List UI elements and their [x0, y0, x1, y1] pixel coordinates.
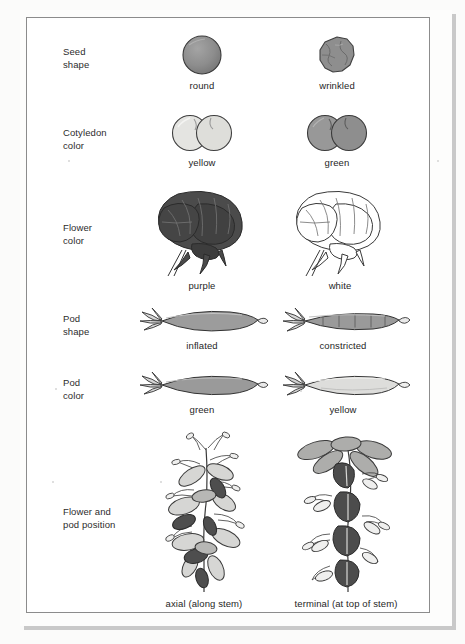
trait-cell-purple-flower: purple [139, 186, 265, 291]
caption-green-pod: green [127, 404, 277, 415]
trait-cell-constricted-pod: constricted [265, 304, 421, 351]
caption-green-cotyledon: green [282, 157, 392, 168]
trait-cell-yellow-pod: yellow [265, 368, 421, 415]
trait-cell-round: round [147, 32, 257, 91]
trait-row-seed-shape: Seed shape round [27, 32, 431, 108]
caption-yellow-cotyledon: yellow [147, 157, 257, 168]
scan-speck [437, 160, 439, 162]
trait-cell-terminal: terminal (at top of stem) [261, 430, 431, 609]
row-label-flower-color: Flower color [63, 222, 92, 247]
trait-row-pod-shape: Pod shape inflated [27, 304, 431, 366]
green-pod-icon [132, 368, 272, 402]
trait-row-flower-color: Flower color [27, 186, 431, 301]
trait-cell-wrinkled: wrinkled [282, 32, 392, 91]
trait-cell-yellow-cotyledon: yellow [147, 111, 257, 168]
yellow-pod-icon [273, 368, 413, 402]
row-label-pod-color: Pod color [63, 377, 84, 402]
trait-row-pod-color: Pod color green [27, 368, 431, 430]
wrinkled-seed-icon [307, 32, 367, 78]
trait-cell-inflated-pod: inflated [127, 304, 277, 351]
purple-flower-icon [148, 186, 256, 278]
row-label-flower-and-pod-position: Flower and pod position [63, 506, 115, 531]
scan-speck [52, 481, 54, 483]
axial-stem-icon [148, 430, 260, 596]
white-flower-icon [286, 186, 394, 278]
scan-speck [300, 390, 302, 392]
inflated-pod-icon [132, 304, 272, 338]
row-label-seed-shape: Seed shape [63, 46, 89, 71]
trait-cell-green-pod: green [127, 368, 277, 415]
yellow-cotyledons-icon [164, 111, 240, 155]
trait-row-cotyledon-color: Cotyledon color yellow [27, 111, 431, 185]
row-label-cotyledon-color: Cotyledon color [63, 127, 107, 152]
caption-white-flower: white [277, 280, 403, 291]
scan-speck [55, 388, 57, 390]
scan-speck [160, 481, 162, 483]
row-label-pod-shape: Pod shape [63, 313, 89, 338]
round-seed-icon [172, 32, 232, 78]
caption-inflated-pod: inflated [127, 340, 277, 351]
figure-frame: Seed shape round [26, 17, 430, 613]
terminal-stem-icon [290, 430, 402, 596]
caption-constricted-pod: constricted [265, 340, 421, 351]
caption-wrinkled: wrinkled [282, 80, 392, 91]
caption-round: round [147, 80, 257, 91]
green-cotyledons-icon [299, 111, 375, 155]
trait-cell-white-flower: white [277, 186, 403, 291]
constricted-pod-icon [273, 304, 413, 338]
scan-speck [68, 160, 70, 162]
scanned-page: Seed shape round [0, 0, 465, 644]
caption-purple-flower: purple [139, 280, 265, 291]
caption-yellow-pod: yellow [265, 404, 421, 415]
trait-cell-green-cotyledon: green [282, 111, 392, 168]
caption-terminal: terminal (at top of stem) [261, 598, 431, 609]
trait-row-flower-and-pod-position: Flower and pod position [27, 430, 431, 614]
